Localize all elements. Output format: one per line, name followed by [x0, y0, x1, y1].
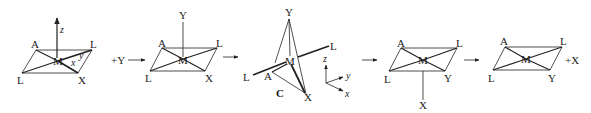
structure-2: Y A L M L X	[145, 9, 223, 84]
angle-label-y: y	[78, 50, 84, 61]
atom-M: M	[418, 54, 428, 66]
structure-4: A L M L Y X	[384, 37, 463, 111]
y-axis-arrow-icon	[326, 77, 343, 83]
atom-M: M	[285, 55, 295, 67]
axis-label-y: y	[345, 70, 351, 81]
atom-L-top: L	[456, 37, 463, 49]
product-plus-X: +X	[565, 54, 579, 66]
atom-Y: Y	[548, 72, 556, 84]
x-axis-arrow-icon	[326, 83, 343, 91]
atom-X: X	[78, 74, 86, 86]
atom-L-top: L	[560, 35, 567, 47]
axis-label-z: z	[59, 24, 64, 35]
axis-label-z: z	[322, 53, 327, 64]
atom-A: A	[264, 70, 272, 82]
step-label-plus-Y: +Y	[111, 54, 125, 66]
atom-A: A	[158, 37, 166, 49]
atom-M: M	[53, 55, 63, 67]
atom-L-bottom: L	[384, 73, 391, 85]
atom-X: X	[419, 99, 427, 111]
coordinate-axes: z y x	[322, 53, 351, 99]
atom-L-top: L	[216, 37, 223, 49]
atom-X: X	[304, 91, 312, 103]
angle-label-x: x	[70, 57, 76, 68]
atom-L-right: L	[330, 40, 337, 52]
atom-Y: Y	[285, 6, 293, 18]
atom-M: M	[521, 53, 531, 65]
atom-A: A	[31, 38, 39, 50]
structure-5: A L M L Y +X	[488, 35, 579, 84]
atom-A: A	[500, 35, 508, 47]
structure-1: z A L M L X x y	[17, 18, 97, 86]
atom-L-left: L	[243, 71, 250, 83]
atom-L-bottom: L	[488, 72, 495, 84]
atom-Y: Y	[179, 9, 187, 21]
atom-A: A	[397, 37, 405, 49]
atom-X: X	[205, 72, 213, 84]
reaction-scheme-diagram: z A L M L X x y +Y Y A L M L X	[0, 0, 591, 113]
step-arrow-1: +Y	[111, 54, 145, 66]
atom-Y: Y	[444, 72, 452, 84]
atom-M: M	[178, 54, 188, 66]
atom-L-top: L	[90, 38, 97, 50]
atom-L-bottom: L	[145, 72, 152, 84]
structure-caption-C: C	[276, 87, 284, 99]
structure-C: Y L M L A X C z y x	[243, 6, 351, 103]
atom-L-bottom: L	[17, 74, 24, 86]
axis-label-x: x	[344, 88, 350, 99]
